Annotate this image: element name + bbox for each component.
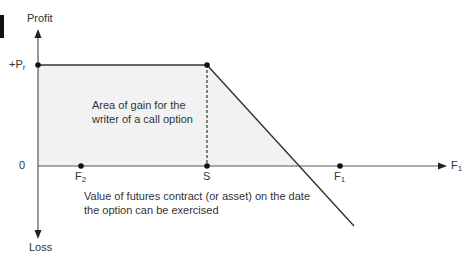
zero-tick-label: 0 bbox=[19, 159, 25, 172]
payoff-diagram bbox=[0, 0, 476, 265]
s-point bbox=[204, 163, 210, 169]
strike-top-point bbox=[204, 62, 210, 68]
f1-point bbox=[337, 163, 343, 169]
y-axis-up-arrow-icon bbox=[35, 29, 42, 38]
premium-point bbox=[35, 62, 41, 68]
f1-label: F1 bbox=[334, 170, 345, 186]
f2-point bbox=[78, 163, 84, 169]
y-axis-bottom-label: Loss bbox=[29, 241, 52, 254]
s-label: S bbox=[203, 170, 210, 183]
y-axis-top-label: Profit bbox=[27, 12, 53, 25]
x-axis-label: F1 bbox=[451, 159, 462, 175]
gain-area-label: Area of gain for the writer of a call op… bbox=[92, 98, 212, 126]
x-axis-arrow-icon bbox=[438, 163, 447, 170]
premium-tick-label: +Pr bbox=[9, 58, 25, 74]
f2-label: F2 bbox=[75, 170, 86, 186]
x-axis-description: Value of futures contract (or asset) on … bbox=[84, 189, 324, 217]
y-axis-down-arrow-icon bbox=[35, 230, 42, 239]
